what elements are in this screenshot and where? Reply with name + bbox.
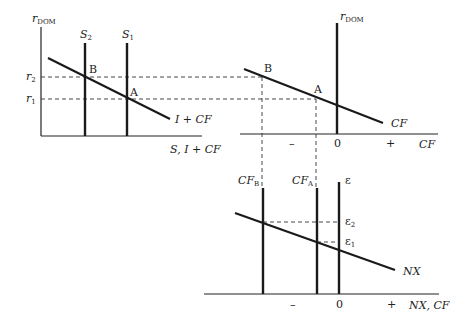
- s1-label: S1: [122, 28, 134, 42]
- fx-minus-tick: –: [290, 298, 296, 311]
- cf-point-a: A: [313, 83, 323, 96]
- three-panel-diagram: rDOM S2 S1 r2 r1 B A I + CF S, I + CF rD…: [0, 0, 469, 330]
- cf-point-b: B: [264, 62, 272, 75]
- fx-plus-tick: +: [387, 298, 396, 311]
- i-plus-cf-label: I + CF: [174, 113, 212, 126]
- e2-label: ε2: [345, 215, 355, 229]
- cfb-label: CFB: [238, 174, 259, 188]
- foreign-exchange-panel: CFB CFA ε ε2 ε1 NX – 0 + NX, CF: [204, 174, 450, 312]
- e1-label: ε1: [345, 235, 355, 249]
- cf-minus-tick: –: [289, 137, 295, 150]
- capital-flows-panel: rDOM B A CF – 0 + CF: [240, 10, 438, 188]
- fx-y-axis-label: ε: [345, 174, 351, 187]
- lf-point-b: B: [89, 63, 97, 76]
- i-plus-cf-demand-curve: [48, 58, 170, 119]
- cf-curve: [244, 69, 383, 123]
- r2-label: r2: [26, 70, 36, 84]
- cf-zero-tick: 0: [334, 137, 341, 150]
- cfa-label: CFA: [292, 174, 314, 188]
- fx-x-axis-label: NX, CF: [408, 299, 450, 312]
- lf-point-a: A: [129, 86, 139, 99]
- fx-zero-tick: 0: [336, 298, 343, 311]
- cf-y-axis-label: rDOM: [340, 10, 364, 24]
- cf-plus-tick: +: [386, 137, 395, 150]
- cf-x-axis-label: CF: [419, 138, 435, 151]
- r1-label: r1: [26, 92, 36, 106]
- s2-label: S2: [80, 28, 92, 42]
- nx-curve-label: NX: [402, 265, 422, 278]
- lf-x-axis-label: S, I + CF: [170, 143, 221, 156]
- lf-y-axis-label: rDOM: [32, 12, 56, 26]
- cf-curve-label: CF: [391, 117, 407, 130]
